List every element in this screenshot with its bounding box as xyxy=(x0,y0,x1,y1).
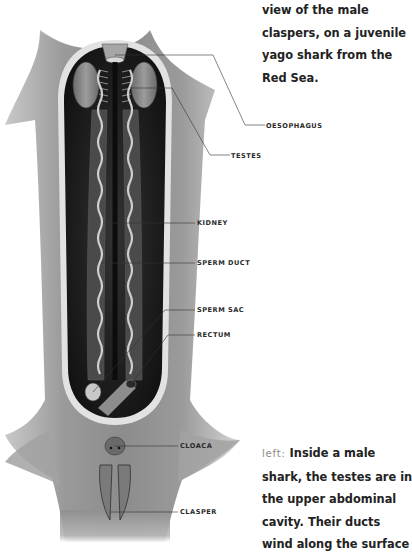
caption-bottom: left: Inside a male shark, the testes ar… xyxy=(262,442,412,555)
label-rectum: RECTUM xyxy=(197,331,231,339)
caption-top-line: Red Sea. xyxy=(262,67,406,90)
label-cloaca: CLOACA xyxy=(180,442,212,450)
label-sperm-sac: SPERM SAC xyxy=(197,306,244,314)
caption-bottom-line: wind along the surface xyxy=(262,533,412,555)
caption-bottom-line: cavity. Their ducts xyxy=(262,511,412,534)
caption-top-line: view of the male xyxy=(262,0,406,22)
caption-top-line: yago shark from the xyxy=(262,44,406,67)
caption-bottom-line: shark, the testes are in xyxy=(262,466,412,489)
label-testes: TESTES xyxy=(231,152,262,160)
label-oesophagus: OESOPHAGUS xyxy=(266,122,322,130)
caption-first-line-text: Inside a male xyxy=(286,446,376,460)
caption-bottom-first-line: left: Inside a male xyxy=(262,442,412,466)
label-clasper: CLASPER xyxy=(180,508,217,516)
caption-lead: left: xyxy=(262,448,286,459)
label-kidney: KIDNEY xyxy=(197,219,228,227)
label-sperm-duct: SPERM DUCT xyxy=(197,259,250,267)
caption-bottom-line: the upper abdominal xyxy=(262,488,412,511)
caption-top-line: claspers, on a juvenile xyxy=(262,22,406,45)
oesophagus xyxy=(102,44,128,63)
caption-top: view of the male claspers, on a juvenile… xyxy=(262,0,406,89)
